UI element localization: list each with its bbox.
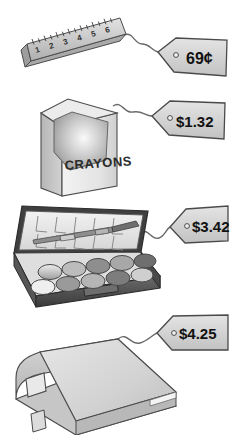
ruler-icon: 1 2 3 4 5 6 bbox=[21, 18, 126, 67]
price-label: $1.32 bbox=[176, 113, 214, 130]
spine-bottom-tab bbox=[31, 410, 46, 432]
price-label: 69¢ bbox=[186, 50, 213, 67]
price-tag-paint: $3.42 bbox=[170, 206, 230, 243]
price-tag-ruler: 69¢ bbox=[158, 38, 227, 76]
price-tag-binder: $4.25 bbox=[157, 315, 228, 350]
supplies-illustration: 1 2 3 4 5 6 69¢ bbox=[0, 0, 230, 435]
tag-string-crayons bbox=[113, 104, 152, 116]
crayon-box-icon: CRAYONS bbox=[41, 99, 132, 196]
price-label: $4.25 bbox=[179, 325, 217, 342]
item-paint-set-group: $3.42 bbox=[14, 206, 230, 307]
item-binder-group: $4.25 bbox=[16, 315, 228, 435]
illustration-scene: 1 2 3 4 5 6 69¢ bbox=[0, 0, 230, 435]
price-tag-crayons: $1.32 bbox=[152, 101, 225, 139]
item-crayons-group: CRAYONS $1.32 bbox=[41, 99, 225, 196]
paint-set-icon bbox=[14, 206, 160, 307]
tag-string-binder bbox=[118, 333, 157, 343]
tag-string-ruler bbox=[124, 34, 158, 52]
item-ruler-group: 1 2 3 4 5 6 69¢ bbox=[21, 18, 227, 76]
binder-icon bbox=[16, 339, 176, 435]
price-label: $3.42 bbox=[192, 218, 230, 235]
